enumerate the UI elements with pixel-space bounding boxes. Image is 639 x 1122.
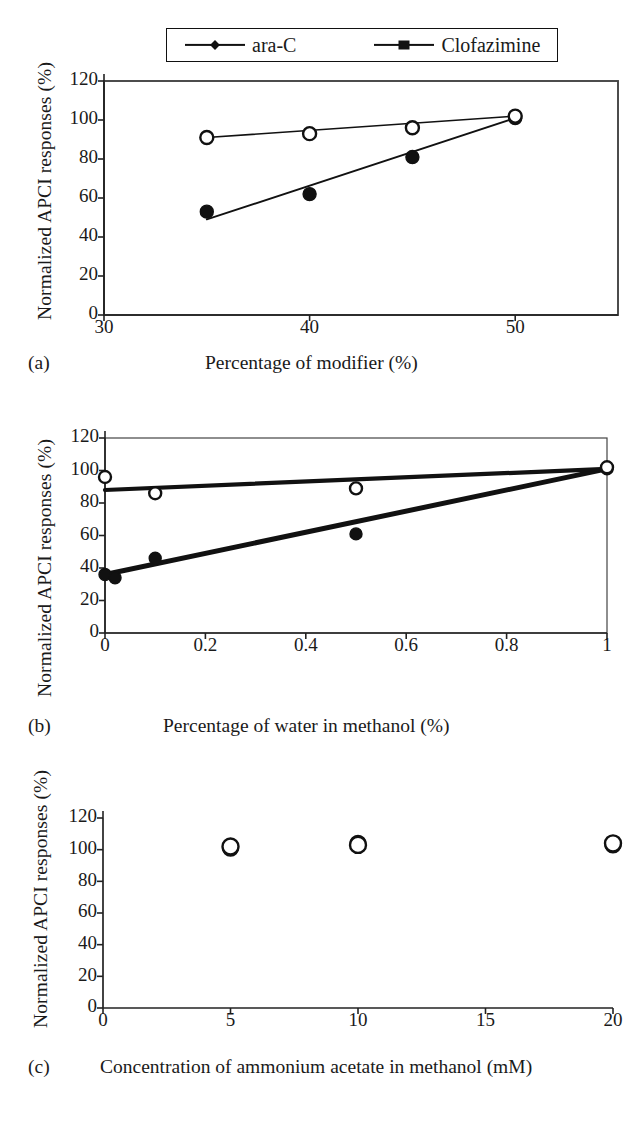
panel-b-tag: (b)	[28, 715, 51, 737]
figure-root: ara-C Clofazimine Normalized APCI respon…	[0, 0, 639, 1122]
filled-circle-marker	[350, 528, 362, 540]
y-tick-label: 80	[79, 146, 98, 167]
y-tick-label: 20	[80, 588, 99, 609]
filled-circle-marker	[200, 205, 213, 218]
y-tick-label: 120	[69, 805, 98, 826]
filled-circle-marker	[303, 188, 316, 201]
panel-c-x-axis-label: Concentration of ammonium acetate in met…	[100, 1056, 532, 1078]
x-tick-label: 40	[300, 316, 319, 337]
y-tick-label: 0	[88, 995, 98, 1016]
x-tick-label: 20	[604, 1009, 623, 1030]
x-tick-label: 5	[226, 1009, 236, 1030]
y-tick-label: 120	[70, 68, 99, 89]
x-tick-label: 0.4	[294, 634, 318, 655]
panel-a-x-axis-label: Percentage of modifier (%)	[205, 352, 418, 374]
y-tick-label: 60	[79, 185, 98, 206]
open-circle-marker	[223, 839, 239, 855]
panel-a-tag: (a)	[28, 352, 50, 374]
y-tick-label: 100	[71, 458, 100, 479]
filled-circle-marker	[406, 151, 419, 164]
x-tick-label: 0	[98, 1009, 108, 1030]
y-tick-label: 40	[78, 932, 97, 953]
trend-line-ara-c	[207, 118, 515, 219]
x-tick-label: 1	[602, 634, 612, 655]
x-tick-label: 0.6	[394, 634, 418, 655]
chart-panel-c: Normalized APCI responses (%) 0204060801…	[0, 760, 639, 1122]
y-tick-label: 0	[90, 620, 100, 641]
panel-c-tag: (c)	[28, 1056, 50, 1078]
open-circle-marker	[350, 482, 362, 494]
y-tick-label: 120	[71, 425, 100, 446]
open-circle-marker	[509, 110, 522, 123]
open-circle-marker	[200, 131, 213, 144]
chart-panel-a: Normalized APCI responses (%) 0204060801…	[0, 0, 639, 385]
plot-frame	[104, 81, 618, 315]
open-circle-marker	[350, 837, 366, 853]
open-circle-marker	[99, 471, 111, 483]
y-tick-label: 20	[78, 964, 97, 985]
panel-b-x-axis-label: Percentage of water in methanol (%)	[163, 715, 449, 737]
filled-circle-marker	[109, 572, 121, 584]
trend-line-clofazimine	[207, 116, 515, 137]
open-circle-marker	[601, 461, 613, 473]
y-tick-label: 40	[80, 555, 99, 576]
x-tick-label: 50	[506, 316, 525, 337]
open-circle-marker	[406, 121, 419, 134]
y-tick-label: 80	[78, 869, 97, 890]
y-tick-label: 20	[79, 263, 98, 284]
y-tick-label: 100	[69, 837, 98, 858]
open-circle-marker	[149, 487, 161, 499]
x-tick-label: 10	[349, 1009, 368, 1030]
open-circle-marker	[605, 835, 621, 851]
y-tick-label: 100	[70, 107, 99, 128]
x-tick-label: 30	[95, 316, 114, 337]
y-tick-label: 40	[79, 224, 98, 245]
chart-panel-b: Normalized APCI responses (%) 0204060801…	[0, 385, 639, 760]
y-tick-label: 60	[80, 523, 99, 544]
panel-b-plot: 02040608010012000.20.40.60.81	[0, 385, 639, 715]
x-tick-label: 0.2	[194, 634, 218, 655]
x-tick-label: 15	[476, 1009, 495, 1030]
x-tick-label: 0	[100, 634, 110, 655]
y-tick-label: 80	[80, 490, 99, 511]
x-tick-label: 0.8	[495, 634, 519, 655]
y-tick-label: 60	[78, 900, 97, 921]
filled-circle-marker	[149, 552, 161, 564]
panel-c-plot: 02040608010012005101520	[0, 760, 639, 1060]
panel-a-plot: 020406080100120304050	[0, 0, 639, 345]
open-circle-marker	[303, 127, 316, 140]
